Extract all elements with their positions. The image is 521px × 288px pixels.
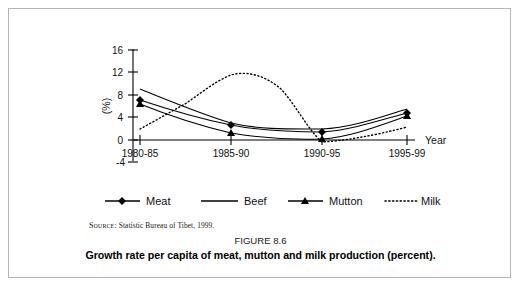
y-tick-label-4: 4 [117,112,123,123]
legend-item-milk[interactable]: Milk [385,195,441,207]
figure-frame: 16 12 8 4 0 -4 (%) 1980-85 1985-90 1990-… [8,8,511,278]
figure-caption: Growth rate per capita of meat, mutton a… [9,249,512,261]
legend-label-beef: Beef [244,195,268,207]
figure-number-label: FIGURE 8.6 [9,235,512,246]
x-tick-label-1980-85: 1980-85 [122,148,159,159]
legend-label-milk: Milk [421,195,441,207]
y-tick-label-16: 16 [112,45,124,56]
legend-label-meat: Meat [146,195,170,207]
source-note: Source: Statistic Bureau of Tibet, 1999. [89,221,214,230]
source-prefix: Source: [89,221,117,230]
legend-item-beef[interactable]: Beef [201,195,268,207]
legend-marker-meat-diamond [118,197,126,205]
source-text: Statistic Bureau of Tibet, 1999. [119,221,215,230]
x-tick-label-1995-99: 1995-99 [389,148,426,159]
y-axis-title: (%) [100,98,112,114]
legend-item-mutton[interactable]: Mutton [288,195,363,207]
chart-legend: Meat Beef Mutton Milk [105,195,441,207]
legend-label-mutton: Mutton [329,195,363,207]
x-axis-title: Year [425,134,447,146]
series-line-beef [140,89,407,129]
x-tick-label-1985-90: 1985-90 [213,148,250,159]
y-tick-label-12: 12 [112,67,124,78]
y-tick-label-8: 8 [117,90,123,101]
x-tick-label-1990-95: 1990-95 [304,148,341,159]
series-line-milk [140,73,407,142]
y-tick-label-0: 0 [117,135,123,146]
legend-item-meat[interactable]: Meat [105,195,170,207]
